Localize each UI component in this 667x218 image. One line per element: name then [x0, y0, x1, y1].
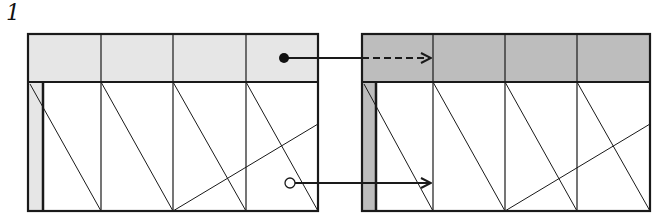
- right-panel: [362, 34, 650, 211]
- left-diagonal: [173, 82, 246, 211]
- right-diagonal: [577, 82, 650, 211]
- body-connector: [285, 178, 431, 188]
- left-diagonal: [101, 82, 173, 211]
- left-diagonal: [246, 82, 318, 211]
- left-side-strip: [28, 82, 43, 211]
- right-diagonal: [433, 82, 505, 211]
- filled-dot-icon: [279, 53, 289, 63]
- right-diagonal: [505, 82, 577, 211]
- left-panel: [28, 34, 318, 211]
- right-header-band: [362, 34, 650, 82]
- diagram-canvas: [0, 0, 667, 218]
- open-dot-icon: [285, 178, 295, 188]
